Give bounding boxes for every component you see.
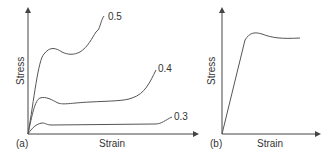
panel-a: 0.5 0.4 0.3 Stress Strain (a) (15, 10, 196, 149)
panel-label: (a) (16, 138, 28, 149)
curve-0.3 (28, 117, 172, 134)
curve-b (222, 33, 300, 134)
curve-0.5 (28, 16, 104, 134)
x-axis-label: Strain (257, 138, 283, 149)
panel-label: (b) (210, 138, 222, 149)
panel-b: Stress Strain (b) (206, 10, 318, 149)
y-axis-label: Stress (15, 57, 26, 85)
curve-label-0.4: 0.4 (158, 63, 172, 74)
x-axis-label: Strain (99, 138, 125, 149)
curve-label-0.5: 0.5 (108, 11, 122, 22)
y-axis-label: Stress (206, 57, 217, 85)
curve-label-0.3: 0.3 (174, 111, 188, 122)
stress-strain-diagram: 0.5 0.4 0.3 Stress Strain (a) Stress Str… (0, 0, 335, 155)
